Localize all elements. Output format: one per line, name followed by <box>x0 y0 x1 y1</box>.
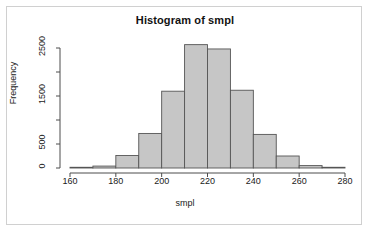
histogram-bar <box>162 91 185 168</box>
histogram-bar <box>322 167 345 168</box>
x-tick-label: 220 <box>200 176 215 186</box>
y-tick-label: 0 <box>37 154 47 178</box>
x-tick-label: 280 <box>337 176 352 186</box>
histogram-bar <box>116 156 139 168</box>
histogram-bar <box>299 166 322 168</box>
histogram-bar <box>139 133 162 168</box>
y-tick-label: 500 <box>37 130 47 154</box>
histogram-plot: Histogram of smpl Frequency smpl 1601802… <box>0 0 370 239</box>
histogram-bar <box>185 45 208 168</box>
x-tick-label: 160 <box>62 176 77 186</box>
y-tick-label: 1500 <box>37 82 47 106</box>
histogram-bar <box>276 156 299 168</box>
histogram-bar <box>93 166 116 168</box>
y-tick-label: 2500 <box>37 34 47 58</box>
histogram-bar <box>70 167 93 168</box>
histogram-bar <box>230 90 253 168</box>
x-tick-label: 180 <box>108 176 123 186</box>
chart-canvas <box>0 0 370 239</box>
histogram-bar <box>208 49 231 168</box>
x-tick-label: 240 <box>246 176 261 186</box>
x-tick-label: 260 <box>292 176 307 186</box>
x-tick-label: 200 <box>154 176 169 186</box>
histogram-bar <box>253 134 276 168</box>
